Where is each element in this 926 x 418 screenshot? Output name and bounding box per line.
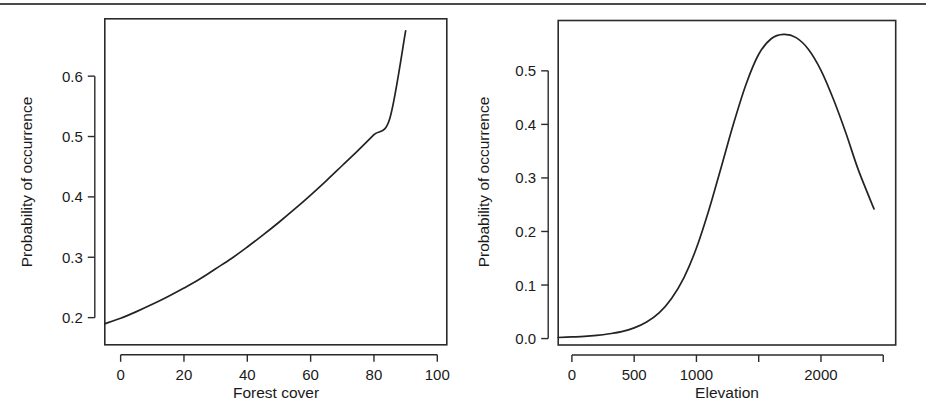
x-tick-label: 0 bbox=[116, 366, 124, 383]
y-tick-label: 0.1 bbox=[515, 277, 536, 294]
y-tick-label: 0.5 bbox=[515, 62, 536, 79]
x-axis-right: 050010002000 bbox=[568, 355, 884, 383]
forest-cover-plot: 020406080100 0.20.30.40.50.6 Forest cove… bbox=[0, 0, 463, 418]
x-tick-label: 60 bbox=[302, 366, 319, 383]
y-axis-title-left: Probability of occurrence bbox=[18, 97, 35, 268]
x-tick-label: 40 bbox=[239, 366, 256, 383]
x-tick-label: 2000 bbox=[804, 366, 837, 383]
x-tick-label: 80 bbox=[366, 366, 383, 383]
x-tick-label: 1000 bbox=[680, 366, 713, 383]
x-axis-title-right: Elevation bbox=[695, 384, 759, 401]
y-tick-label: 0.6 bbox=[62, 68, 83, 85]
x-tick-label: 500 bbox=[622, 366, 647, 383]
figure-container: 020406080100 0.20.30.40.50.6 Forest cove… bbox=[0, 0, 926, 418]
y-axis-left: 0.20.30.40.50.6 bbox=[62, 68, 95, 326]
y-tick-label: 0.4 bbox=[62, 188, 83, 205]
x-tick-label: 20 bbox=[176, 366, 193, 383]
y-tick-label: 0.3 bbox=[62, 249, 83, 266]
chart-panel-elevation: 050010002000 0.00.10.20.30.40.5 Elevatio… bbox=[463, 0, 926, 418]
x-tick-label: 0 bbox=[568, 366, 576, 383]
y-tick-label: 0.3 bbox=[515, 169, 536, 186]
plot-frame-left bbox=[105, 19, 447, 345]
elevation-plot: 050010002000 0.00.10.20.30.40.5 Elevatio… bbox=[463, 0, 926, 418]
y-tick-label: 0.0 bbox=[515, 330, 536, 347]
chart-panel-forest-cover: 020406080100 0.20.30.40.50.6 Forest cove… bbox=[0, 0, 463, 418]
plot-frame-right bbox=[558, 21, 896, 346]
y-tick-label: 0.2 bbox=[62, 309, 83, 326]
y-axis-title-right: Probability of occurrence bbox=[475, 97, 492, 268]
x-axis-left: 020406080100 bbox=[116, 355, 449, 383]
y-tick-label: 0.2 bbox=[515, 223, 536, 240]
data-curve-elevation bbox=[558, 34, 874, 337]
y-tick-label: 0.5 bbox=[62, 128, 83, 145]
data-curve-forest-cover bbox=[105, 31, 406, 324]
x-tick-label: 100 bbox=[425, 366, 450, 383]
y-axis-right: 0.00.10.20.30.40.5 bbox=[515, 62, 548, 347]
x-axis-title-left: Forest cover bbox=[233, 384, 319, 401]
y-tick-label: 0.4 bbox=[515, 116, 536, 133]
